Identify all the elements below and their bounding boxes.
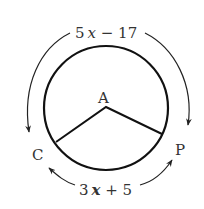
point-c-label: C [32,146,43,164]
minor-arc-label: 3x + 5 [79,181,132,199]
minor-arc-arrow-right [140,160,172,185]
minor-arc-arrow-left [49,168,75,185]
minor-arc-coef: 3 [79,181,89,199]
minor-arc-rest: + 5 [101,181,133,199]
point-p-label: P [175,141,185,159]
circle-diagram: A C P 5x − 17 3x + 5 [0,0,204,209]
major-arc-label: 5x − 17 [75,24,137,42]
radius-lines [56,107,162,142]
center-label: A [97,89,109,107]
major-arc-rest: − 17 [96,24,137,42]
major-arc-coef: 5 [75,24,85,42]
